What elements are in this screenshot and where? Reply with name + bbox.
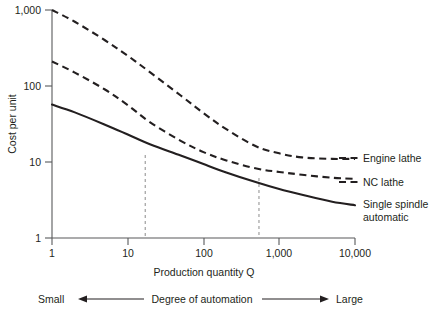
x-tick-label-100: 100 — [195, 247, 213, 259]
x-tick-label-1000: 1,000 — [266, 247, 292, 259]
x-axis-title: Production quantity Q — [154, 266, 255, 278]
series-group — [52, 10, 355, 205]
series-single-spindle-automatic — [52, 105, 355, 206]
legend-label-nc-lathe: NC lathe — [363, 176, 404, 188]
legend-label-engine-lathe: Engine lathe — [363, 152, 422, 164]
x-tick-label-10: 10 — [122, 247, 134, 259]
y-tick-label-100: 100 — [23, 80, 41, 92]
chart-figure: 1,000 100 10 1 Cost per unit 1 10 100 1,… — [0, 0, 437, 326]
automation-arrow-right-head — [320, 296, 329, 303]
legend-label-single-spindle-line1: Single spindle — [363, 198, 429, 210]
automation-arrow-left-head — [78, 296, 87, 303]
y-tick-label-1000: 1,000 — [15, 4, 41, 16]
x-tick-label-1: 1 — [49, 247, 55, 259]
automation-label-large: Large — [336, 293, 363, 305]
legend-label-single-spindle-line2: automatic — [363, 211, 409, 223]
y-tick-label-1: 1 — [35, 232, 41, 244]
automation-label-center: Degree of automation — [152, 293, 253, 305]
y-axis-title: Cost per unit — [6, 94, 18, 154]
x-tick-label-10000: 10,000 — [339, 247, 371, 259]
cost-per-unit-log-log-chart: 1,000 100 10 1 Cost per unit 1 10 100 1,… — [0, 0, 437, 326]
series-nc-lathe — [52, 62, 355, 179]
automation-label-small: Small — [38, 293, 64, 305]
y-tick-label-10: 10 — [29, 156, 41, 168]
